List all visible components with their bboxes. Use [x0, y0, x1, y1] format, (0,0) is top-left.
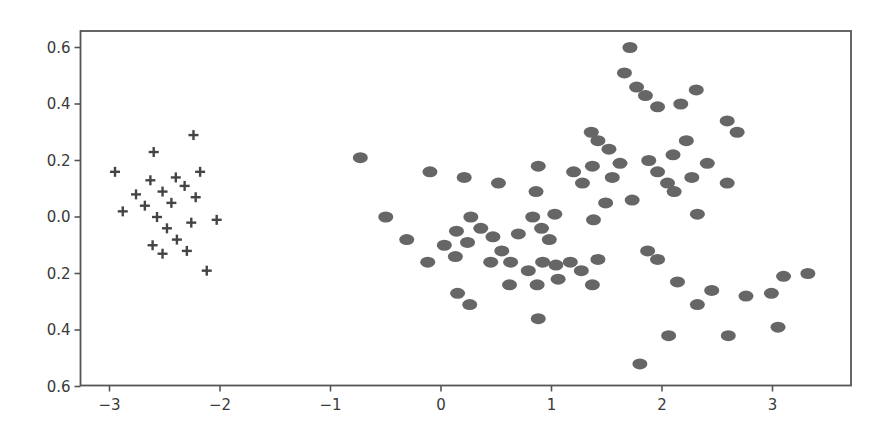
circle-marker [502, 279, 517, 290]
circle-marker [622, 42, 637, 53]
circle-marker [776, 271, 791, 282]
y-tick-label: 0.2 [47, 265, 71, 283]
circle-marker [689, 84, 704, 95]
circle-marker [650, 166, 665, 177]
circle-marker [720, 115, 735, 126]
circle-marker [690, 209, 705, 220]
circle-marker [590, 254, 605, 265]
x-tick-label: 2 [657, 396, 667, 414]
circle-marker [684, 172, 699, 183]
y-tick-label: 0.6 [47, 39, 71, 57]
circle-marker [448, 251, 463, 262]
x-tick-label: 3 [768, 396, 778, 414]
x-tick-label: −3 [98, 396, 120, 414]
circle-marker [494, 245, 509, 256]
circle-marker [586, 214, 601, 225]
circle-marker [641, 155, 656, 166]
x-tick-label: −1 [319, 396, 341, 414]
circle-marker [640, 245, 655, 256]
circle-marker [551, 274, 566, 285]
circle-marker [422, 166, 437, 177]
y-tick-label: 0.4 [47, 321, 71, 339]
y-tick-label: 0.4 [47, 95, 71, 113]
circle-marker [563, 257, 578, 268]
circle-marker [585, 279, 600, 290]
circle-marker [548, 260, 563, 271]
y-tick-label: 0.0 [47, 208, 71, 226]
circle-marker [690, 299, 705, 310]
circle-marker [531, 161, 546, 172]
circle-marker [632, 358, 647, 369]
circle-marker [601, 144, 616, 155]
circle-marker [574, 265, 589, 276]
circle-marker [617, 67, 632, 78]
circle-marker [511, 228, 526, 239]
circle-marker [437, 240, 452, 251]
circle-marker [529, 186, 544, 197]
y-tick-label: 0.2 [47, 152, 71, 170]
circle-marker [463, 212, 478, 223]
circle-marker [531, 313, 546, 324]
circle-marker [420, 257, 435, 268]
circle-marker [491, 178, 506, 189]
circle-marker [460, 237, 475, 248]
circle-marker [800, 268, 815, 279]
x-tick-label: 1 [547, 396, 557, 414]
circle-marker [483, 257, 498, 268]
circle-marker [673, 99, 688, 110]
circle-marker [650, 101, 665, 112]
circle-marker [721, 330, 736, 341]
circle-marker [542, 234, 557, 245]
x-tick-label: −2 [209, 396, 231, 414]
circle-marker [771, 322, 786, 333]
circle-marker [547, 209, 562, 220]
chart-background [0, 0, 873, 433]
circle-marker [485, 231, 500, 242]
circle-marker [638, 90, 653, 101]
circle-marker [670, 276, 685, 287]
circle-marker [720, 178, 735, 189]
circle-marker [730, 127, 745, 138]
y-tick-label: 0.6 [47, 378, 71, 396]
circle-marker [399, 234, 414, 245]
circle-marker [679, 135, 694, 146]
circle-marker [473, 223, 488, 234]
circle-marker [450, 288, 465, 299]
circle-marker [462, 299, 477, 310]
circle-marker [575, 178, 590, 189]
circle-marker [605, 172, 620, 183]
circle-marker [738, 291, 753, 302]
circle-marker [613, 158, 628, 169]
circle-marker [590, 135, 605, 146]
circle-marker [521, 265, 536, 276]
circle-marker [378, 212, 393, 223]
circle-marker [535, 257, 550, 268]
scatter-chart: −3−2−10123 0.60.40.20.00.20.40.6 [0, 0, 873, 433]
circle-marker [585, 161, 600, 172]
circle-marker [457, 172, 472, 183]
circle-marker [449, 226, 464, 237]
circle-marker [534, 223, 549, 234]
circle-marker [598, 197, 613, 208]
circle-marker [566, 166, 581, 177]
circle-marker [530, 279, 545, 290]
circle-marker [666, 149, 681, 160]
circle-marker [503, 257, 518, 268]
circle-marker [764, 288, 779, 299]
circle-marker [704, 285, 719, 296]
circle-marker [650, 254, 665, 265]
circle-marker [700, 158, 715, 169]
circle-marker [667, 186, 682, 197]
circle-marker [661, 330, 676, 341]
circle-marker [353, 152, 368, 163]
circle-marker [525, 212, 540, 223]
x-tick-label: 0 [436, 396, 446, 414]
circle-marker [625, 195, 640, 206]
